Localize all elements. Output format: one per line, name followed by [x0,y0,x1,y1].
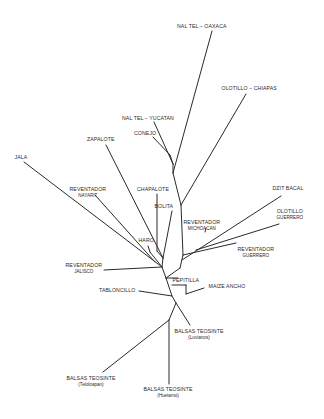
taxon-label-nal-tel-yucatan: NAL TEL – YUCATAN [122,115,174,122]
tree-branch [166,278,172,296]
tree-branch [181,94,246,205]
tree-branch [172,296,176,303]
taxon-name: MAIZE ANCHO [209,283,246,289]
taxon-label-reventador-nayarit: REVENTADORNAYARIT [70,186,107,199]
tree-branch [95,195,155,262]
tree-branch [139,291,172,296]
tree-branch [104,267,162,270]
tree-branch [103,320,169,372]
taxon-label-chapalote: CHAPALOTE [137,186,169,193]
taxon-subname: NAYARIT [70,193,107,200]
taxon-name: NAL TEL – YUCATAN [122,115,174,121]
taxon-subname: (Huetamo) [144,393,193,400]
tree-branch [173,31,212,173]
taxon-name: REVENTADOR [66,262,103,268]
taxon-subname: GUERRERO [277,215,304,222]
tree-branch [106,145,163,258]
taxon-label-balsas-teosinte-huetamo: BALSAS TEOSINTE(Huetamo) [144,386,193,399]
taxon-label-balsas-teosinte-luvianos: BALSAS TEOSINTE(Luvianos) [175,328,224,341]
taxon-name: TABLONCILLO [99,287,135,293]
tree-branch [169,303,176,320]
taxon-subname: JALISCO [66,269,103,276]
taxon-name: BALSAS TEOSINTE [144,386,193,392]
tree-branch [163,211,172,258]
taxon-subname: (Teloloapan) [67,382,116,389]
taxon-name: NAL TEL – OAXACA [177,23,227,29]
taxon-label-balsas-teosinte-teloloapan: BALSAS TEOSINTE(Teloloapan) [67,375,116,388]
tree-branch [154,122,173,164]
taxon-label-dzit-bacal: DZIT BACAL [273,185,304,192]
taxon-name: CHAPALOTE [137,186,169,192]
tree-branch [186,288,204,294]
taxon-name: JALA [15,154,28,160]
taxon-label-pepitilla: PEPITILLA [173,277,200,284]
taxon-name: HARO [139,237,154,243]
taxon-label-nal-tel-oaxaca: NAL TEL – OAXACA [177,23,227,30]
phylogenetic-tree [0,0,324,419]
taxon-label-maize-ancho: MAIZE ANCHO [209,283,246,290]
taxon-name: BALSAS TEOSINTE [175,328,224,334]
tree-branch [162,267,166,278]
taxon-name: REVENTADOR [238,246,275,252]
tree-branch [176,303,190,325]
tree-branch [162,258,163,267]
taxon-label-conejo: CONEJO [134,130,156,137]
taxon-label-reventador-michoacan: REVENTADORMICHOACAN [184,219,221,232]
taxon-name: REVENTADOR [70,186,107,192]
tree-branch [148,246,150,252]
taxon-name: OLOTILLO – CHIAPAS [222,85,277,91]
taxon-label-reventador-guerrero: REVENTADORGUERRERO [238,246,275,259]
taxon-label-zapalote: ZAPALOTE [87,136,115,143]
taxon-subname: MICHOACAN [184,226,221,233]
taxon-name: ZAPALOTE [87,136,115,142]
taxon-label-haro: HARO [139,237,154,244]
taxon-name: BALSAS TEOSINTE [67,375,116,381]
tree-branch [173,173,181,205]
taxon-label-reventador-jalisco: REVENTADORJALISCO [66,262,103,275]
tree-branch [180,255,183,268]
taxon-name: REVENTADOR [184,219,221,225]
taxon-label-bolita: BOLITA [155,203,174,210]
tree-branch [183,243,236,255]
taxon-label-tabloncillo: TABLONCILLO [99,287,135,294]
taxon-name: PEPITILLA [173,277,200,283]
taxon-name: DZIT BACAL [273,185,304,191]
taxon-name: CONEJO [134,130,156,136]
taxon-subname: (Luvianos) [175,335,224,342]
taxon-label-jala: JALA [15,154,28,161]
taxon-name: OLOTILLO [277,208,303,214]
taxon-label-olotillo-chiapas: OLOTILLO – CHIAPAS [222,85,277,92]
taxon-subname: GUERRERO [238,253,275,260]
taxon-label-olotillo-guerrero: OLOTILLOGUERRERO [277,208,304,221]
taxon-name: BOLITA [155,203,174,209]
